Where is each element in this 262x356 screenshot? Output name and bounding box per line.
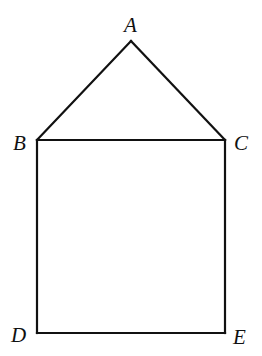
segment-ab [37,41,131,140]
label-c: C [234,131,249,155]
label-d: D [10,323,26,347]
label-b: B [13,131,26,155]
label-a: A [122,13,137,37]
segment-ac [131,41,225,140]
geometry-diagram: A B C D E [0,0,262,356]
label-e: E [232,325,246,349]
